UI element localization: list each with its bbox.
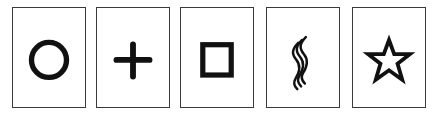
wavy-lines-icon [267, 8, 339, 107]
plus-icon [97, 8, 169, 107]
card-star: star [352, 7, 426, 108]
card-plus: plus [96, 7, 170, 108]
card-waves: waves [266, 7, 340, 108]
card-circle: circle [12, 7, 86, 108]
circle-icon [13, 8, 85, 107]
star-icon [353, 8, 425, 107]
square-icon [181, 8, 253, 107]
card-square: square [180, 7, 254, 108]
